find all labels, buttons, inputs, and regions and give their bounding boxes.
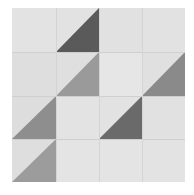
quilt-cell	[142, 139, 185, 182]
quilt-cell	[12, 96, 56, 139]
seam-vertical	[142, 8, 143, 182]
quilt-cell	[142, 52, 185, 96]
quilt-cell	[99, 52, 142, 96]
quilt-cell	[56, 8, 99, 52]
quilt-cell	[142, 96, 185, 139]
triangle-shape	[142, 52, 185, 96]
quilt-cell	[56, 139, 99, 182]
quilt-cell	[142, 8, 185, 52]
seam-vertical	[56, 8, 57, 182]
seam-vertical	[99, 8, 100, 182]
quilt-block	[12, 8, 185, 182]
quilt-cell	[12, 139, 56, 182]
quilt-cell	[99, 139, 142, 182]
quilt-cell	[56, 52, 99, 96]
quilt-cell	[12, 8, 56, 52]
triangle-shape	[56, 8, 99, 52]
quilt-cell	[99, 8, 142, 52]
triangle-shape	[56, 52, 99, 96]
triangle-shape	[12, 139, 56, 182]
quilt-cell	[99, 96, 142, 139]
triangle-shape	[99, 96, 142, 139]
triangle-shape	[12, 96, 56, 139]
quilt-cell	[12, 52, 56, 96]
quilt-cell	[56, 96, 99, 139]
